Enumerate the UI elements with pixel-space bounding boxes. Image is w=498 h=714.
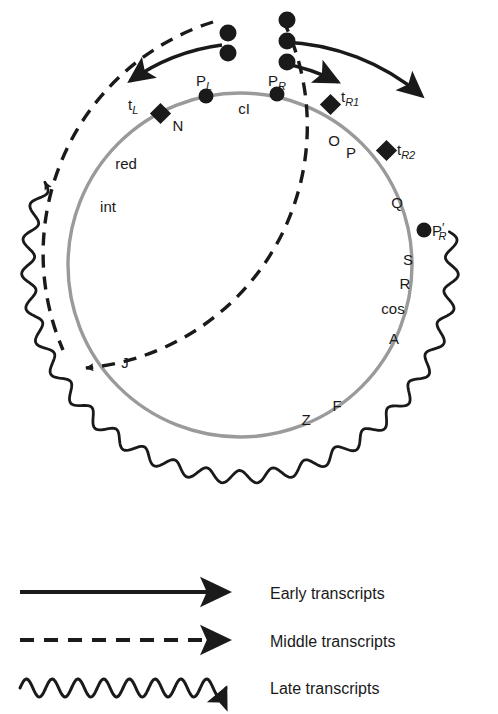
gene-label-j: J	[121, 354, 129, 371]
site-label-prp: P′R	[432, 220, 446, 242]
lambda-transcription-diagram: PLPRP′RtLtR1tR2 NcIOPQSRcosAFZJintred Ea…	[0, 0, 498, 714]
gene-label-o: O	[328, 132, 340, 149]
gene-label-z: Z	[301, 411, 310, 428]
legend-group: Early transcripts Middle transcripts Lat…	[20, 585, 395, 697]
terminator-diamond-tl[interactable]	[150, 103, 171, 124]
gene-label-s: S	[403, 251, 413, 268]
gene-label-p: P	[346, 144, 356, 161]
terminator-diamonds-group	[150, 94, 397, 161]
site-label-tl: tL	[128, 96, 138, 116]
legend-swatch-late	[20, 679, 226, 697]
gene-label-red: red	[115, 155, 137, 172]
gene-label-cos: cos	[381, 300, 404, 317]
lambda-map-svg: PLPRP′RtLtR1tR2 NcIOPQSRcosAFZJintred Ea…	[0, 0, 498, 714]
gene-label-r: R	[400, 275, 411, 292]
start-dot-pr-early-outer[interactable]	[279, 33, 296, 50]
legend-label-early: Early transcripts	[270, 585, 385, 602]
gene-label-q: Q	[391, 194, 403, 211]
gene-label-f: F	[332, 397, 341, 414]
site-label-tr1: tR1	[341, 88, 359, 108]
gene-label-a: A	[389, 330, 399, 347]
site-labels-group: PLPRP′RtLtR1tR2	[128, 72, 446, 242]
gene-label-ci: cI	[238, 100, 250, 117]
legend-label-late: Late transcripts	[270, 680, 379, 697]
start-dot-pr-middle[interactable]	[279, 12, 296, 29]
start-dot-pr-early-inner[interactable]	[279, 54, 296, 71]
gene-label-n: N	[173, 117, 184, 134]
promoter-dot-pr-prime[interactable]	[417, 223, 432, 238]
site-label-tr2: tR2	[397, 141, 415, 161]
transcript-start-dots-group	[220, 12, 296, 71]
gene-label-int: int	[100, 198, 117, 215]
early-transcript-leftward	[130, 45, 222, 81]
start-dot-pl-early[interactable]	[220, 45, 237, 62]
start-dot-pl-middle[interactable]	[220, 25, 237, 42]
lambda-genome-circle	[68, 93, 412, 437]
terminator-diamond-tr2[interactable]	[376, 140, 397, 161]
genome-circle-group	[68, 93, 412, 437]
legend-label-middle: Middle transcripts	[270, 633, 395, 650]
middle-transcript-leftward	[43, 22, 213, 350]
terminator-diamond-tr1[interactable]	[320, 94, 341, 115]
